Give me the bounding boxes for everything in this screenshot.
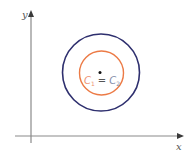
x-axis-label: x [176, 141, 182, 152]
x-axis-arrow-icon [177, 133, 184, 139]
c1-subscript: 1 [91, 80, 95, 87]
y-axis-label: y [21, 9, 28, 20]
center-point [99, 71, 102, 74]
y-axis-arrow-icon [28, 10, 34, 17]
c1-letter: C [84, 75, 91, 86]
center-label: C1=C2 [84, 75, 120, 87]
concentric-circles-diagram: x y C1=C2 [0, 0, 193, 158]
inner-circle [80, 51, 124, 95]
equals-sign: = [98, 75, 106, 86]
diagram-canvas: x y C1=C2 [0, 0, 193, 158]
c2-subscript: 2 [116, 80, 120, 87]
c2-letter: C [109, 75, 116, 86]
